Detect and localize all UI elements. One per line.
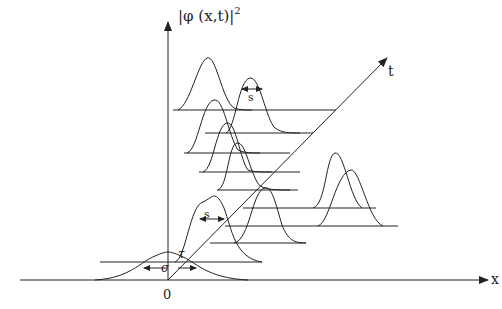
tau-label: τ [178,248,185,260]
s-label-lower: s [204,209,210,220]
origin-label: 0 [163,288,171,301]
t-axis-label: t [388,64,394,78]
t-axis [168,58,387,280]
x-axis-label: x [491,272,499,286]
wave-packet-diagram: |φ (x,t)|2 t x 0 σ τ s s [0,0,502,309]
diagram-graphic [0,0,502,309]
s-label-upper: s [248,92,254,103]
y-axis-label: |φ (x,t)|2 [178,6,241,24]
sigma-label: σ [161,262,169,274]
